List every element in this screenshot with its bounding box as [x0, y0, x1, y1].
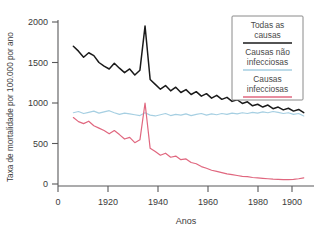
legend-label-noninfectious-line1: Causas não — [245, 47, 290, 57]
legend-label-noninfectious-line2: infecciosas — [247, 57, 288, 67]
legend-label-infectious-line1: Causas — [253, 74, 281, 84]
legend-label-all-causes-line1: Todas as — [251, 20, 285, 30]
y-tick-group: 0 500 1000 1500 2000 — [28, 17, 58, 189]
x-tick-label: 1920 — [98, 197, 118, 207]
y-tick-label: 2000 — [28, 17, 48, 27]
legend-label-all-causes-line2: causas — [254, 30, 281, 40]
y-tick-label: 1000 — [28, 98, 48, 108]
series-line-causas-infecciosas — [73, 111, 303, 116]
chart-svg: Taxa de mortalidade por 100.000 por ano … — [0, 0, 317, 238]
y-tick-label: 0 — [43, 179, 48, 189]
x-tick-group: 0 1920 1940 1960 1980 1900 — [55, 186, 302, 207]
x-tick-label: 1900 — [282, 197, 302, 207]
x-tick-label: 0 — [55, 197, 60, 207]
x-tick-label: 1980 — [248, 197, 268, 207]
x-tick-label: 1940 — [148, 197, 168, 207]
y-tick-label: 500 — [33, 139, 48, 149]
mortality-line-chart: Taxa de mortalidade por 100.000 por ano … — [0, 0, 317, 238]
chart-legend: Todas as causas Causas não infecciosas C… — [232, 16, 303, 100]
legend-label-infectious-line2: infecciosas — [247, 84, 288, 94]
y-tick-label: 1500 — [28, 58, 48, 68]
x-axis-title: Anos — [176, 216, 197, 226]
y-axis-title: Taxa de mortalidade por 100.000 por ano — [6, 32, 15, 182]
x-tick-label: 1960 — [198, 197, 218, 207]
